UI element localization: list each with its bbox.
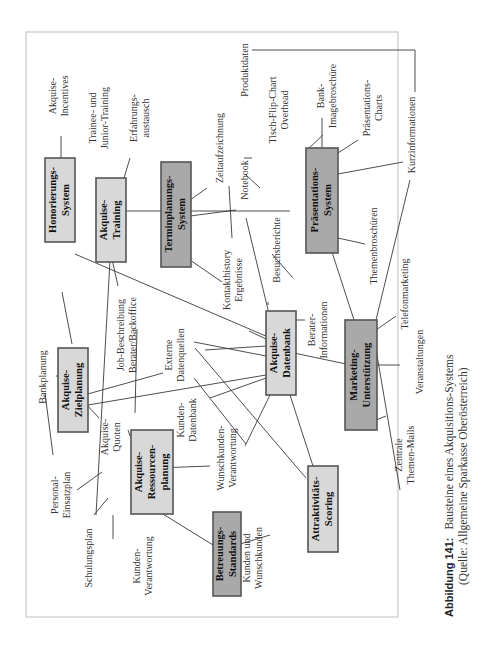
box-label: System: [322, 184, 333, 216]
box-label: Marketing-: [348, 349, 359, 401]
label-job-beschreibung: Berater/Backoffice: [127, 297, 138, 373]
label-erfahrungsaustausch: austausch: [140, 99, 151, 138]
label-kontakthistory: Ergebnisse: [233, 258, 244, 302]
label-notebook: Notebook: [239, 160, 250, 199]
label-kunden-wunschkunden: Wunschkunden: [253, 527, 264, 589]
label-trainee-training: Junior-Training: [99, 87, 110, 149]
box-label: Datenbank: [281, 328, 292, 378]
box-label: Akquise-: [268, 332, 279, 373]
box-praesentations-system: Präsentations- System: [306, 148, 338, 253]
box-attraktivitaets-scoring: Attraktivitäts- Scoring: [308, 466, 338, 552]
label-akquise-incentives: Incentives: [59, 75, 70, 116]
caption-line-1: Abbildung 141: Bausteine eines Akquisiti…: [439, 354, 456, 617]
label-bank-imagebroschuere: Bank-: [315, 84, 326, 108]
box-label: Betreuungs-: [214, 526, 225, 581]
caption-title: Bausteine eines Akquisitions-Systems: [443, 354, 456, 530]
label-zentrale-themen-mails: Themen-Mails: [405, 425, 416, 484]
label-berater-informationen: Berater-: [306, 314, 317, 347]
box-akquise-zielplanung: Akquise- Zielplanung: [58, 348, 88, 432]
label-bank-imagebroschuere: Imagebroschüre: [327, 63, 338, 128]
label-job-beschreibung: Job-Beschreibung: [115, 299, 126, 371]
label-themenbroschueren: Themenbroschüren: [368, 207, 379, 284]
label-akquise-quoten: Akquise-: [99, 419, 110, 456]
label-veranstaltungen: Veranstaltungen: [414, 330, 425, 394]
box-label: Attraktivitäts-: [310, 476, 321, 541]
box-label: Standards: [227, 531, 238, 577]
diagram-canvas: Honorierungs- System Akquise- Training T…: [0, 0, 492, 645]
label-flipchart-overhead: Tisch-Flip-Chart: [267, 76, 278, 143]
frame: [26, 32, 398, 617]
label-externe-datenquellen: Datenquellen: [175, 328, 186, 381]
label-personal-einsatzplan: Personal-: [49, 476, 60, 514]
label-wunschkunden-verantwortung: Verantwortung: [227, 428, 238, 487]
figure-caption: Abbildung 141: Bausteine eines Akquisiti…: [439, 354, 470, 617]
box-label: Akquise-: [98, 199, 109, 240]
label-praesentations-charts: Präsentations-: [361, 80, 372, 137]
box-akquise-ressourcenplanung: Akquise- Ressourcen- planung: [131, 430, 173, 514]
box-honorierungs-system: Honorierungs- System: [45, 158, 75, 242]
box-terminplanungs-system: Terminplanungs- System: [161, 162, 191, 267]
box-label: Präsentations-: [309, 167, 320, 232]
label-personal-einsatzplan: Einsatzplan: [61, 472, 72, 519]
label-telefonmarketing: Telefonmarketing: [399, 259, 410, 330]
label-erfahrungsaustausch: Erfahrungs-: [128, 94, 139, 142]
box-label: Honorierungs-: [47, 167, 58, 233]
box-label: Scoring: [323, 491, 334, 526]
box-akquise-training: Akquise- Training: [96, 178, 126, 262]
box-label: Akquise-: [133, 451, 144, 492]
label-kunden-verantwortung: Verantwortung: [143, 536, 154, 595]
label-praesentations-charts: Charts: [373, 95, 384, 121]
label-kunden-verantwortung: Kunden-: [131, 549, 142, 584]
label-berater-informationen: Informationen: [318, 301, 329, 358]
box-marketing-unterstuetzung: Marketing- Unterstützung: [345, 320, 377, 430]
label-kunden-datenbank: Datenbank: [187, 398, 198, 441]
box-label: Unterstützung: [361, 342, 372, 407]
label-externe-datenquellen: Externe: [163, 339, 174, 371]
box-label: Terminplanungs-: [163, 175, 174, 253]
box-label: Ressourcen-: [146, 444, 157, 499]
box-label: Akquise-: [60, 369, 71, 410]
label-besuchsberichte: Besuchsberichte: [271, 217, 282, 283]
label-bankplanung: Bankplanung: [37, 350, 48, 403]
label-trainee-training: Trainee- und: [87, 92, 98, 143]
caption-label: Abbildung 141:: [443, 538, 455, 617]
label-kunden-datenbank: Kunden-: [175, 403, 186, 438]
box-label: System: [176, 198, 187, 230]
box-label: Training: [111, 200, 122, 240]
box-akquise-datenbank: Akquise- Datenbank: [266, 311, 296, 395]
box-label: Zielplanung: [73, 362, 84, 417]
label-schulungsplan: Schulungsplan: [83, 529, 94, 588]
box-label: System: [60, 184, 71, 216]
label-kunden-wunschkunden: Kunden und: [241, 533, 252, 582]
label-wunschkunden-verantwortung: Wunschkunden-: [215, 425, 226, 490]
box-betreuungs-standards: Betreuungs- Standards: [213, 512, 241, 596]
label-zeitaufzeichnung: Zeitaufzeichnung: [214, 113, 225, 183]
caption-source: (Quelle: Allgemeine Sparkasse Oberösterr…: [457, 367, 470, 585]
label-kontakthistory: Kontakthistory: [221, 250, 232, 310]
label-akquise-incentives: Akquise-: [47, 78, 58, 115]
box-label: planung: [159, 453, 170, 491]
label-kurzinformationen: Kurzinformationen: [406, 97, 417, 174]
label-flipchart-overhead: Overhead: [279, 91, 290, 130]
label-akquise-quoten: Quoten: [111, 422, 122, 451]
label-zentrale-themen-mails: Zentrale: [393, 438, 404, 472]
label-produktdaten: Produktdaten: [239, 43, 250, 96]
